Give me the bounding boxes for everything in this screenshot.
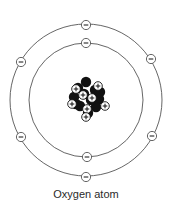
electron — [147, 131, 156, 140]
electron — [81, 38, 90, 47]
proton — [88, 94, 97, 103]
electron — [81, 20, 90, 29]
proton — [101, 102, 110, 111]
nucleus — [68, 77, 110, 121]
electron — [16, 57, 25, 66]
proton — [94, 82, 103, 91]
proton — [79, 91, 88, 100]
proton — [83, 105, 92, 114]
electron — [16, 132, 25, 141]
proton — [82, 113, 91, 122]
electron — [82, 152, 91, 161]
diagram-caption: Oxygen atom — [0, 188, 170, 200]
proton — [72, 85, 81, 94]
proton — [68, 100, 77, 109]
electron — [81, 172, 90, 181]
oxygen-atom-diagram — [0, 0, 170, 185]
electron — [146, 54, 155, 63]
